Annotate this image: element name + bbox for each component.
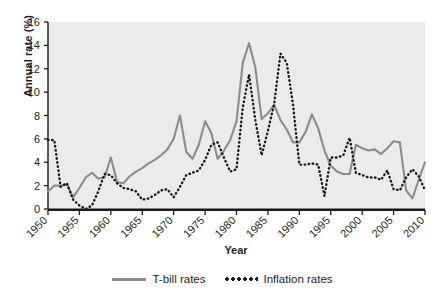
legend-swatch-solid-line-icon bbox=[112, 278, 146, 281]
legend-label-t-bill-rates: T-bill rates bbox=[152, 273, 205, 285]
x-tick-label: 2005 bbox=[369, 214, 395, 240]
legend-item-inflation-rates: Inflation rates bbox=[224, 273, 333, 285]
legend-label-inflation-rates: Inflation rates bbox=[264, 273, 333, 285]
x-tick-label: 1975 bbox=[181, 214, 207, 240]
x-tick-label: 2000 bbox=[338, 214, 364, 240]
y-tick-label: 6 bbox=[34, 133, 40, 145]
x-tick-label: 2010 bbox=[401, 214, 427, 240]
x-tick-label: 1960 bbox=[86, 214, 112, 240]
y-axis-label: Annual rate (%) bbox=[22, 0, 34, 136]
chart-figure: Annual rate (%) 0246810121416 1950195519… bbox=[0, 0, 445, 303]
y-tick-label: 8 bbox=[34, 110, 40, 122]
y-tick-label: 0 bbox=[34, 203, 40, 215]
y-tick-label: 2 bbox=[34, 180, 40, 192]
x-tick-label: 1990 bbox=[275, 214, 301, 240]
x-tick-label: 1980 bbox=[212, 214, 238, 240]
x-tick-label: 1970 bbox=[149, 214, 175, 240]
x-tick-label: 1985 bbox=[244, 214, 270, 240]
line-chart-plot: 0246810121416 19501955196019651970197519… bbox=[0, 0, 445, 245]
y-tick-label: 4 bbox=[34, 156, 40, 168]
x-tick-label: 1955 bbox=[55, 214, 81, 240]
legend-item-t-bill-rates: T-bill rates bbox=[112, 273, 205, 285]
x-axis-ticks: 1950195519601965197019751980198519901995… bbox=[24, 210, 427, 240]
chart-legend: T-bill rates Inflation rates bbox=[0, 273, 445, 285]
x-tick-label: 1965 bbox=[118, 214, 144, 240]
x-axis-label: Year bbox=[45, 244, 427, 256]
x-tick-label: 1995 bbox=[306, 214, 332, 240]
x-tick-label: 1950 bbox=[24, 214, 50, 240]
legend-swatch-dotted-line-icon bbox=[224, 277, 258, 281]
